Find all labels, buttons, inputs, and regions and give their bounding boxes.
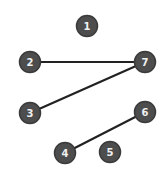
- node-label: 7: [142, 57, 149, 68]
- node-label: 6: [142, 107, 149, 118]
- node-label: 3: [27, 108, 34, 119]
- node-3: 3: [20, 103, 41, 124]
- node-1: 1: [77, 16, 98, 37]
- node-7: 7: [135, 52, 156, 73]
- node-4: 4: [55, 143, 76, 164]
- node-label: 5: [107, 147, 114, 158]
- node-5: 5: [100, 142, 121, 163]
- graph-diagram: 1234567: [0, 0, 168, 176]
- node-label: 4: [62, 148, 69, 159]
- edge-3-7: [30, 62, 145, 113]
- node-2: 2: [20, 52, 41, 73]
- node-6: 6: [135, 102, 156, 123]
- node-label: 2: [27, 57, 34, 68]
- edges-layer: [30, 62, 145, 153]
- node-label: 1: [84, 21, 91, 32]
